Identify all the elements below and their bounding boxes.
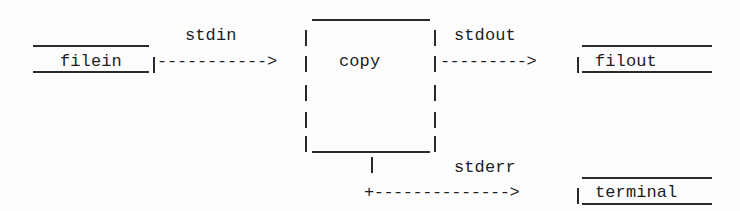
filein-top-rule	[33, 45, 149, 47]
copy-box-left-5	[305, 136, 307, 152]
copy-box-left-4	[305, 112, 307, 128]
filein-right-bar	[153, 57, 155, 73]
stdin-label: stdin	[185, 26, 237, 46]
terminal-bottom-rule	[582, 203, 712, 205]
copy-box-right-5	[434, 136, 436, 152]
copy-box-left-3	[305, 85, 307, 101]
filout-label: filout	[595, 52, 657, 72]
stdout-label: stdout	[454, 26, 516, 46]
copy-box-right-3	[434, 85, 436, 101]
copy-box-bottom	[312, 151, 430, 153]
stdout-arrow: --------->	[440, 52, 536, 72]
filout-top-rule	[582, 45, 712, 47]
filout-left-bar	[577, 57, 579, 73]
terminal-label: terminal	[595, 183, 677, 203]
copy-box-right-2	[434, 56, 436, 72]
filein-label: filein	[60, 52, 122, 72]
copy-box-left-1	[305, 30, 307, 46]
copy-box-top	[312, 19, 430, 21]
terminal-top-rule	[582, 177, 712, 179]
copy-box-right-1	[434, 30, 436, 46]
stderr-drop-bar	[371, 157, 373, 173]
stderr-arrow: +-------------->	[364, 183, 519, 203]
data-flow-diagram: filein stdin -----------> copy stdout --…	[0, 0, 740, 211]
stdin-arrow: ----------->	[157, 52, 277, 72]
copy-box-right-4	[434, 112, 436, 128]
filein-bottom-rule	[33, 71, 149, 73]
stderr-label: stderr	[454, 158, 516, 178]
terminal-left-bar	[577, 188, 579, 204]
filout-bottom-rule	[582, 71, 712, 73]
copy-box-left-2	[305, 56, 307, 72]
copy-process-label: copy	[339, 52, 380, 72]
